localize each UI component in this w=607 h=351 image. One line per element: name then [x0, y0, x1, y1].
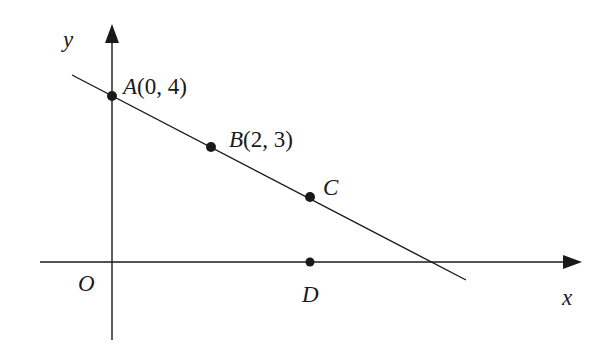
- line-abc: [72, 75, 466, 280]
- point-a-label: A(0, 4): [123, 75, 187, 98]
- y-axis-arrow-icon: [105, 24, 119, 43]
- point-c-label: C: [323, 176, 338, 199]
- x-axis-label: x: [562, 286, 572, 309]
- point-c: [305, 192, 315, 202]
- coordinate-diagram: y x O A(0, 4) B(2, 3) C D: [0, 0, 607, 351]
- point-d-label: D: [302, 283, 319, 306]
- point-b-label: B(2, 3): [229, 128, 293, 151]
- y-axis-label: y: [63, 28, 73, 51]
- x-axis-arrow-icon: [563, 255, 582, 269]
- point-a: [107, 91, 117, 101]
- point-d: [306, 258, 315, 267]
- point-b: [206, 142, 216, 152]
- origin-label: O: [78, 272, 95, 295]
